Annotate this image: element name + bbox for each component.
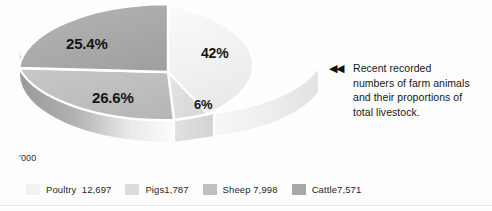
legend-item-cattle: Cattle7,571	[292, 184, 362, 195]
legend-swatch-cattle	[292, 184, 306, 195]
chart-legend: Poultry 12,697 Pigs1,787 Sheep 7,998 Cat…	[26, 182, 375, 196]
legend-item-poultry: Poultry 12,697	[26, 184, 111, 195]
legend-label-poultry: Poultry 12,697	[46, 184, 111, 195]
legend-label-cattle: Cattle7,571	[312, 184, 362, 195]
annotation-caption: ◀◀ Recent recorded numbers of farm anima…	[329, 61, 485, 119]
annotation-line-3: and their proportions of	[353, 90, 485, 105]
legend-swatch-pigs	[125, 184, 139, 195]
pie-label-poultry: 42%	[201, 45, 228, 61]
pie-chart-svg	[8, 0, 320, 160]
pie-chart-figure: 25.4% 42% 26.6% 6% '000 Poultry 12,697 P…	[0, 0, 492, 211]
legend-label-pigs: Pigs1,787	[145, 184, 188, 195]
annotation-line-2: numbers of farm animals	[353, 76, 485, 91]
pie-label-cattle: 25.4%	[66, 35, 108, 52]
annotation-line-4: total livestock.	[353, 105, 485, 120]
annotation-line-1: Recent recorded	[353, 61, 485, 76]
pie-label-sheep: 26.6%	[92, 89, 134, 106]
double-left-arrow-icon: ◀◀	[329, 62, 343, 75]
legend-label-sheep: Sheep 7,998	[223, 184, 278, 195]
pie-chart: 25.4% 42% 26.6% 6%	[8, 0, 320, 160]
legend-swatch-poultry	[26, 184, 40, 195]
legend-item-pigs: Pigs1,787	[125, 184, 188, 195]
legend-item-sheep: Sheep 7,998	[203, 184, 278, 195]
annotation-text: Recent recorded numbers of farm animals …	[329, 61, 485, 119]
pie-label-pigs: 6%	[194, 97, 212, 112]
legend-swatch-sheep	[203, 184, 217, 195]
divider-line	[0, 205, 492, 206]
units-label: '000	[19, 153, 37, 163]
